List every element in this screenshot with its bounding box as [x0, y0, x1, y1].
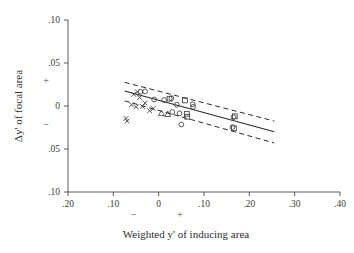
x-axis-title: Weighted y' of inducing area [123, 228, 249, 240]
data-point-circle [230, 125, 235, 130]
scatter-plot-figure: .10.050.05.10 .20.100.10.20.30.40 −++− W… [0, 0, 354, 253]
regression-line [125, 91, 275, 132]
y-tick-label: 0 [55, 101, 60, 111]
x-tick-label: .30 [289, 199, 301, 209]
data-point-cross [134, 104, 139, 109]
data-point-circle [177, 111, 182, 116]
data-point-circle [143, 89, 148, 94]
x-sign-annotation: − [131, 209, 137, 220]
data-point-cross [129, 102, 134, 107]
data-point-cross [143, 101, 148, 106]
x-sign-annotation: + [177, 209, 183, 220]
data-point-cross [137, 95, 142, 100]
y-tick-label: .10 [48, 15, 60, 25]
x-tick-label: 0 [156, 199, 161, 209]
y-sign-annotation: + [43, 75, 49, 86]
x-tick-label: .10 [198, 199, 210, 209]
data-point-square [232, 126, 237, 131]
x-tick-label: .40 [334, 199, 346, 209]
x-axis-ticks: .20.100.10.20.30.40 [62, 192, 346, 209]
y-axis-title: Δy' of focal area [12, 70, 24, 142]
y-sign-annotation: − [43, 119, 49, 130]
lower-band-line [125, 101, 275, 143]
data-point-circle [170, 110, 175, 115]
y-axis-ticks: .10.050.05.10 [48, 15, 68, 197]
data-point-circle [179, 122, 184, 127]
y-tick-label: .05 [48, 58, 60, 68]
x-tick-label: .20 [243, 199, 255, 209]
axes-group [68, 20, 340, 192]
data-point-circle [138, 89, 143, 94]
regression-fit-line [125, 91, 275, 132]
x-tick-label: .20 [62, 199, 74, 209]
plot-canvas: .10.050.05.10 .20.100.10.20.30.40 −++− W… [0, 0, 354, 253]
upper-band-line [125, 82, 275, 121]
x-tick-label: .10 [107, 199, 119, 209]
y-tick-label: .05 [48, 144, 60, 154]
y-tick-label: .10 [48, 187, 60, 197]
